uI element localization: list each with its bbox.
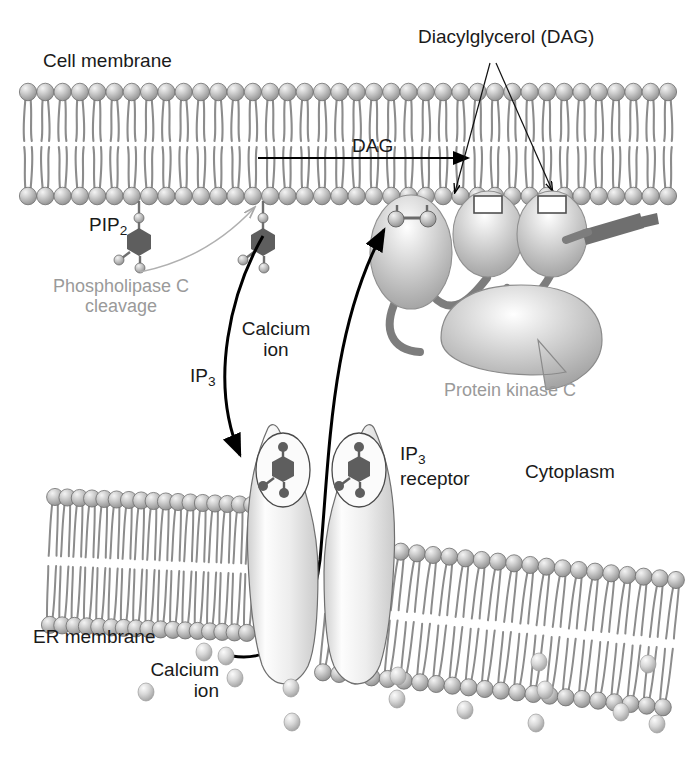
lipid-head-group (509, 684, 526, 701)
lipid-head-group (435, 83, 452, 101)
lipid-head-group (635, 568, 652, 585)
lipid-head-group (37, 187, 54, 205)
lipid-head-group (71, 83, 88, 101)
lipid-head-group (452, 83, 469, 101)
lipid-head-group (608, 187, 625, 205)
lipid-head-group (625, 187, 642, 205)
lipid-head-group (473, 551, 490, 568)
label-er-membrane: ER membrane (33, 626, 156, 647)
calcium-ion (649, 715, 665, 733)
lipid-head-group (460, 679, 477, 696)
lipid-head-group (262, 83, 279, 101)
lipid-head-group (642, 187, 659, 205)
dag-pointer-lines (455, 63, 552, 192)
lipid-head-group (441, 548, 458, 565)
lipid-head-group (642, 83, 659, 101)
lipid-head-group (123, 83, 140, 101)
diagram-canvas: Cell membrane Diacylglycerol (DAG) DAG P… (0, 0, 687, 764)
lipid-head-group (570, 561, 587, 578)
lipid-head-group (400, 83, 417, 101)
protein-kinase-c-complex (370, 191, 659, 390)
lipid-head-group (106, 83, 123, 101)
label-ip3: IP3 (190, 365, 216, 389)
lipid-head-group (590, 83, 607, 101)
lipid-head-group (89, 187, 106, 205)
lipid-head-group (490, 553, 507, 570)
calcium-ion (537, 681, 553, 699)
er-membrane-left-segment (41, 488, 260, 641)
calcium-ion (283, 679, 299, 697)
lipid-head-group (296, 187, 313, 205)
lipid-head-group (210, 187, 227, 205)
lipid-head-group (238, 624, 255, 641)
label-cytoplasm: Cytoplasm (525, 461, 615, 482)
lipid-head-group (412, 674, 429, 691)
lipid-head-group (106, 187, 123, 205)
calcium-ion (284, 713, 300, 731)
label-calcium-ion-lower: Calcium ion (133, 659, 219, 702)
lipid-head-group (476, 680, 493, 697)
lipid-head-group (625, 83, 642, 101)
pkc-regulatory-lobe-1 (370, 195, 452, 309)
calcium-ion-labeled (218, 647, 234, 665)
lipid-head-group (457, 550, 474, 567)
lipid-head-group (314, 664, 331, 681)
lipid-head-group (538, 558, 555, 575)
lipid-head-group (296, 83, 313, 101)
lipid-head-group (244, 83, 261, 101)
lipid-head-group (587, 563, 604, 580)
lipid-head-group (175, 187, 192, 205)
lipid-head-group (522, 556, 539, 573)
lipid-head-group (158, 187, 175, 205)
lipid-head-group (493, 682, 510, 699)
ip3-binding-site-left (256, 433, 310, 507)
lipid-head-group (365, 83, 382, 101)
lipid-head-group (668, 571, 685, 588)
lipid-head-group (521, 83, 538, 101)
phospholipase-c-pointer (140, 208, 254, 272)
lipid-head-group (556, 83, 573, 101)
lipid-head-group (279, 187, 296, 205)
lipid-head-group (573, 83, 590, 101)
lipid-head-group (590, 692, 607, 709)
lipid-head-group (365, 187, 382, 205)
calcium-ion (457, 701, 473, 719)
lipid-head-group (619, 566, 636, 583)
lipid-head-group (654, 699, 671, 716)
lipid-head-group (435, 187, 452, 205)
lipid-head-group (651, 570, 668, 587)
cell-membrane-bilayer (19, 83, 676, 205)
calcium-ion (389, 690, 405, 708)
lipid-head-group (383, 83, 400, 101)
label-pip2-subscript: 2 (120, 223, 128, 238)
label-calcium-ion-upper: Calcium ion (233, 318, 319, 361)
label-ip3-receptor-subscript: 3 (418, 452, 426, 467)
lipid-head-group (348, 187, 365, 205)
lipid-head-group (192, 83, 209, 101)
lipid-head-group (659, 83, 676, 101)
lipid-head-group (538, 83, 555, 101)
lipid-head-group (638, 697, 655, 714)
lipid-head-group (444, 677, 461, 694)
lipid-head-group (192, 187, 209, 205)
calcium-ion (390, 667, 406, 685)
label-ip3-receptor-word: receptor (400, 468, 470, 489)
calcium-ion (531, 653, 547, 671)
lipid-head-group (417, 83, 434, 101)
pip2-molecule-cleaved (238, 201, 275, 273)
lipid-head-group (175, 83, 192, 101)
label-pip2-text: PIP (89, 214, 120, 235)
lipid-head-group (37, 83, 54, 101)
label-cell-membrane: Cell membrane (43, 50, 172, 71)
lipid-head-group (331, 83, 348, 101)
lipid-head-group (313, 83, 330, 101)
ip3-binding-site-right (332, 433, 386, 507)
lipid-head-group (506, 555, 523, 572)
lipid-head-group (313, 187, 330, 205)
lipid-head-group (425, 546, 442, 563)
label-phospholipase-c-cleavage: Phospholipase C cleavage (36, 276, 206, 316)
lipid-head-group (409, 545, 426, 562)
lipid-head-group (348, 83, 365, 101)
lipid-head-group (554, 560, 571, 577)
lipid-head-group (244, 187, 261, 205)
